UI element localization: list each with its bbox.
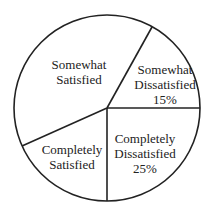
label-somewhat-satisfied-line1: Somewhat xyxy=(52,57,107,72)
label-completely-satisfied-line2: Satisfied xyxy=(42,157,103,172)
label-completely-dissatisfied: Completely Dissatisfied 25% xyxy=(114,131,175,176)
label-somewhat-dissatisfied-percent: 15% xyxy=(134,92,195,107)
label-completely-satisfied: Completely Satisfied xyxy=(42,142,103,172)
label-somewhat-dissatisfied-line1: Somewhat xyxy=(134,62,195,77)
label-completely-dissatisfied-line1: Completely xyxy=(114,131,175,146)
pie-chart-graphic xyxy=(0,0,210,216)
label-completely-satisfied-line1: Completely xyxy=(42,142,103,157)
label-completely-dissatisfied-percent: 25% xyxy=(114,161,175,176)
pie-chart: Somewhat Satisfied Somewhat Dissatisfied… xyxy=(0,0,210,216)
label-somewhat-satisfied-line2: Satisfied xyxy=(52,72,107,87)
label-completely-dissatisfied-line2: Dissatisfied xyxy=(114,146,175,161)
label-somewhat-dissatisfied-line2: Dissatisfied xyxy=(134,77,195,92)
label-somewhat-satisfied: Somewhat Satisfied xyxy=(52,57,107,87)
label-somewhat-dissatisfied: Somewhat Dissatisfied 15% xyxy=(134,62,195,107)
